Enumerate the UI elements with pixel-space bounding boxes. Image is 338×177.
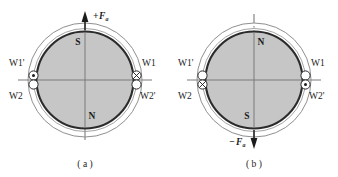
force-label-a: + xyxy=(93,11,98,21)
winding-label-left-upper-a: W1' xyxy=(9,58,25,68)
winding-label-left-upper-b: W1' xyxy=(178,58,194,68)
current-dot-right-lower-b xyxy=(304,83,307,86)
pole-label-top-b: N xyxy=(258,37,265,47)
pole-label-top-a: S xyxy=(75,37,80,47)
pole-label-bottom-b: S xyxy=(244,111,249,121)
winding-label-left-lower-b: W2 xyxy=(178,91,192,101)
winding-label-right-upper-a: W1 xyxy=(142,58,156,68)
force-label-subscript-a: a xyxy=(106,16,109,22)
winding-label-right-lower-a: W2' xyxy=(140,91,156,101)
winding-label-left-lower-a: W2 xyxy=(9,91,23,101)
winding-marker-right-lower-a xyxy=(132,80,141,89)
winding-label-right-lower-b: W2' xyxy=(309,91,325,101)
current-dot-left-upper-a xyxy=(32,74,35,77)
figure-root: + F a S N W1' W2 W1 W2' ( a ) xyxy=(0,0,338,177)
winding-marker-right-upper-b xyxy=(301,71,310,80)
winding-marker-left-lower-a xyxy=(29,80,38,89)
figure-panel-a: + F a S N W1' W2 W1 W2' ( a ) xyxy=(0,0,169,177)
winding-label-right-upper-b: W1 xyxy=(311,58,325,68)
force-label-b: − xyxy=(229,137,235,147)
panel-caption-a: ( a ) xyxy=(77,159,92,170)
figure-panel-b: − F a N S W1' W2 W1 W2' ( b ) xyxy=(169,0,338,177)
force-arrow-head-a xyxy=(82,11,89,22)
panel-caption-b: ( b ) xyxy=(246,159,262,170)
winding-marker-left-upper-b xyxy=(198,71,207,80)
force-arrow-head-b xyxy=(251,138,258,149)
pole-label-bottom-a: N xyxy=(89,111,96,121)
force-label-subscript-b: a xyxy=(243,142,246,148)
